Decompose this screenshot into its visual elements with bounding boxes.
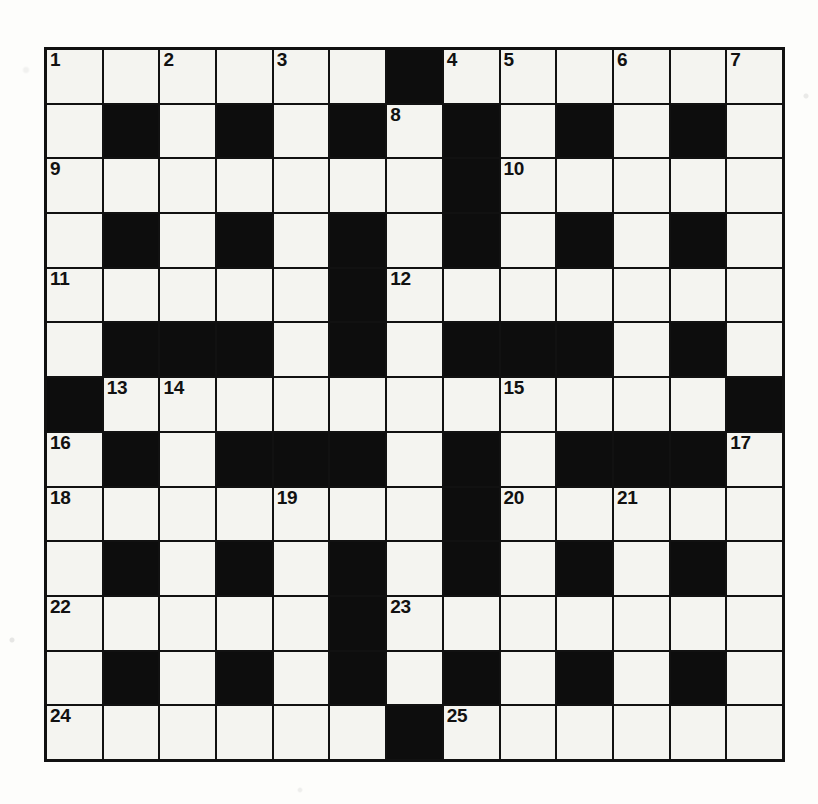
grid-cell-open[interactable] [217,159,272,212]
grid-cell-open[interactable] [387,542,442,595]
grid-cell-open[interactable] [501,105,556,158]
grid-cell-open[interactable] [557,706,612,759]
grid-cell-open[interactable] [274,214,329,267]
grid-cell-open[interactable] [727,652,782,705]
grid-cell-open[interactable] [330,488,385,541]
crossword-grid[interactable]: 1234567891011121314151617181920212223242… [47,50,782,759]
grid-cell-open[interactable]: 4 [444,50,499,103]
grid-cell-open[interactable] [160,597,215,650]
grid-cell-open[interactable] [387,378,442,431]
grid-cell-open[interactable]: 25 [444,706,499,759]
grid-cell-open[interactable] [501,269,556,322]
grid-cell-open[interactable] [557,269,612,322]
grid-cell-open[interactable]: 2 [160,50,215,103]
grid-cell-open[interactable] [614,706,669,759]
grid-cell-open[interactable] [387,214,442,267]
grid-cell-open[interactable]: 21 [614,488,669,541]
grid-cell-open[interactable] [104,50,159,103]
grid-cell-open[interactable] [274,706,329,759]
grid-cell-open[interactable]: 18 [47,488,102,541]
grid-cell-open[interactable] [160,105,215,158]
grid-cell-open[interactable] [387,433,442,486]
grid-cell-open[interactable] [671,269,726,322]
grid-cell-open[interactable] [330,378,385,431]
grid-cell-open[interactable] [727,597,782,650]
grid-cell-open[interactable] [217,378,272,431]
grid-cell-open[interactable] [330,159,385,212]
grid-cell-open[interactable] [444,269,499,322]
grid-cell-open[interactable]: 1 [47,50,102,103]
grid-cell-open[interactable] [217,488,272,541]
grid-cell-open[interactable] [104,488,159,541]
grid-cell-open[interactable] [614,159,669,212]
grid-cell-open[interactable] [274,378,329,431]
grid-cell-open[interactable] [217,50,272,103]
grid-cell-open[interactable] [557,378,612,431]
grid-cell-open[interactable] [614,597,669,650]
grid-cell-open[interactable] [614,542,669,595]
grid-cell-open[interactable] [501,652,556,705]
grid-cell-open[interactable] [104,269,159,322]
grid-cell-open[interactable] [614,652,669,705]
grid-cell-open[interactable]: 7 [727,50,782,103]
grid-cell-open[interactable] [217,597,272,650]
grid-cell-open[interactable]: 20 [501,488,556,541]
grid-cell-open[interactable] [671,597,726,650]
grid-cell-open[interactable] [274,159,329,212]
grid-cell-open[interactable] [727,488,782,541]
grid-cell-open[interactable] [501,542,556,595]
grid-cell-open[interactable] [104,597,159,650]
grid-cell-open[interactable] [501,706,556,759]
grid-cell-open[interactable]: 6 [614,50,669,103]
grid-cell-open[interactable]: 11 [47,269,102,322]
grid-cell-open[interactable] [274,652,329,705]
grid-cell-open[interactable]: 10 [501,159,556,212]
grid-cell-open[interactable] [614,378,669,431]
grid-cell-open[interactable]: 19 [274,488,329,541]
grid-cell-open[interactable] [330,50,385,103]
grid-cell-open[interactable] [557,50,612,103]
grid-cell-open[interactable] [47,105,102,158]
grid-cell-open[interactable] [47,214,102,267]
grid-cell-open[interactable] [727,706,782,759]
grid-cell-open[interactable] [671,159,726,212]
grid-cell-open[interactable] [160,542,215,595]
grid-cell-open[interactable] [160,652,215,705]
grid-cell-open[interactable] [274,542,329,595]
grid-cell-open[interactable] [727,542,782,595]
grid-cell-open[interactable] [387,652,442,705]
grid-cell-open[interactable] [614,323,669,376]
grid-cell-open[interactable]: 5 [501,50,556,103]
grid-cell-open[interactable]: 8 [387,105,442,158]
grid-cell-open[interactable] [274,323,329,376]
grid-cell-open[interactable] [727,269,782,322]
grid-cell-open[interactable] [387,488,442,541]
grid-cell-open[interactable] [557,488,612,541]
grid-cell-open[interactable] [501,214,556,267]
grid-cell-open[interactable]: 23 [387,597,442,650]
grid-cell-open[interactable]: 17 [727,433,782,486]
grid-cell-open[interactable] [387,323,442,376]
grid-cell-open[interactable] [160,433,215,486]
grid-cell-open[interactable] [104,706,159,759]
grid-cell-open[interactable] [47,652,102,705]
grid-cell-open[interactable] [614,214,669,267]
grid-cell-open[interactable] [614,269,669,322]
grid-cell-open[interactable] [274,597,329,650]
grid-cell-open[interactable] [671,488,726,541]
grid-cell-open[interactable] [274,269,329,322]
grid-cell-open[interactable] [387,159,442,212]
grid-cell-open[interactable] [330,706,385,759]
grid-cell-open[interactable] [671,50,726,103]
grid-cell-open[interactable] [160,269,215,322]
grid-cell-open[interactable]: 13 [104,378,159,431]
grid-cell-open[interactable]: 16 [47,433,102,486]
grid-cell-open[interactable] [671,378,726,431]
grid-cell-open[interactable] [160,214,215,267]
grid-cell-open[interactable] [160,488,215,541]
grid-cell-open[interactable]: 12 [387,269,442,322]
grid-cell-open[interactable] [444,597,499,650]
grid-cell-open[interactable] [501,597,556,650]
grid-cell-open[interactable]: 24 [47,706,102,759]
grid-cell-open[interactable]: 9 [47,159,102,212]
